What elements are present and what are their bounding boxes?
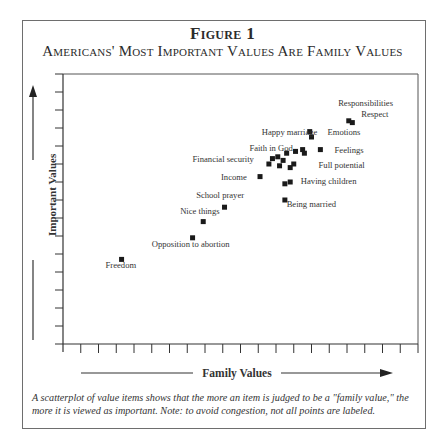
point-label: School prayer [196, 190, 244, 200]
data-point [266, 162, 271, 167]
point-label: Opposition to abortion [152, 239, 231, 249]
point-label: Freedom [106, 260, 137, 270]
point-label: Happy marriage [262, 127, 318, 137]
x-ticks [81, 344, 418, 353]
point-label: Responsibilities [338, 98, 394, 108]
x-axis-label: Family Values [202, 367, 272, 380]
data-point [318, 147, 323, 152]
data-point [222, 205, 227, 210]
x-axis-arrow: Family Values [81, 367, 393, 380]
point-label: Full potential [319, 160, 366, 170]
point-label: Feelings [335, 145, 365, 155]
data-point [275, 154, 280, 159]
data-point [293, 149, 298, 154]
y-axis-arrow [29, 85, 37, 340]
point-label: Being married [287, 199, 337, 209]
data-point [201, 219, 206, 224]
point-label: Income [221, 172, 247, 182]
x-arrow-head [380, 369, 393, 377]
scatter-plot: ResponsibilitiesRespectEmotionsHappy mar… [0, 0, 445, 447]
data-point [270, 156, 275, 161]
y-arrow-head [29, 85, 37, 97]
y-axis-label: Important Values [46, 176, 58, 236]
point-label: Financial security [193, 154, 255, 164]
point-label: Having children [301, 176, 357, 186]
data-point [288, 180, 293, 185]
point-label: Faith in God [249, 143, 293, 153]
point-label: Emotions [327, 127, 361, 137]
data-point [281, 158, 286, 163]
point-label: Nice things [180, 206, 220, 216]
data-point [302, 151, 307, 156]
data-point [350, 120, 355, 125]
data-point [282, 181, 287, 186]
data-point [277, 163, 282, 168]
data-point [258, 174, 263, 179]
data-point [291, 162, 296, 167]
figure-caption: A scatterplot of value items shows that … [32, 391, 422, 417]
point-label: Respect [361, 109, 389, 119]
